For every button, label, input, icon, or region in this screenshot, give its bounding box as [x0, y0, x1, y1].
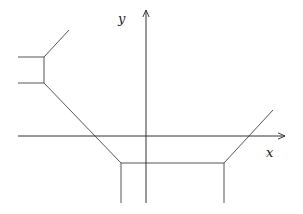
y-axis-label: y [118, 12, 125, 25]
x-axis-label: x [266, 146, 273, 159]
diagram-canvas: y x [0, 0, 303, 214]
segment-long-diagonal [44, 83, 121, 163]
segment-upper-left-diagonal [44, 30, 69, 57]
diagram-svg [0, 0, 303, 214]
